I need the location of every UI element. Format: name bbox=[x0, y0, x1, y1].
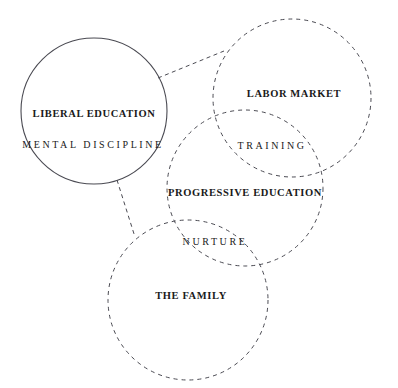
connector-liberal-to-family bbox=[117, 180, 135, 237]
circle-progressive-education[interactable] bbox=[167, 110, 323, 266]
connector-group bbox=[117, 51, 224, 237]
circle-group bbox=[21, 19, 371, 380]
circle-the-family[interactable] bbox=[108, 220, 268, 380]
connector-liberal-to-labor bbox=[158, 51, 224, 78]
circle-liberal-education[interactable] bbox=[21, 38, 167, 184]
circle-labor-market[interactable] bbox=[213, 19, 371, 177]
venn-diagram: LIBERAL EDUCATION MENTAL DISCIPLINE LABO… bbox=[0, 0, 398, 388]
venn-diagram-canvas bbox=[0, 0, 398, 388]
